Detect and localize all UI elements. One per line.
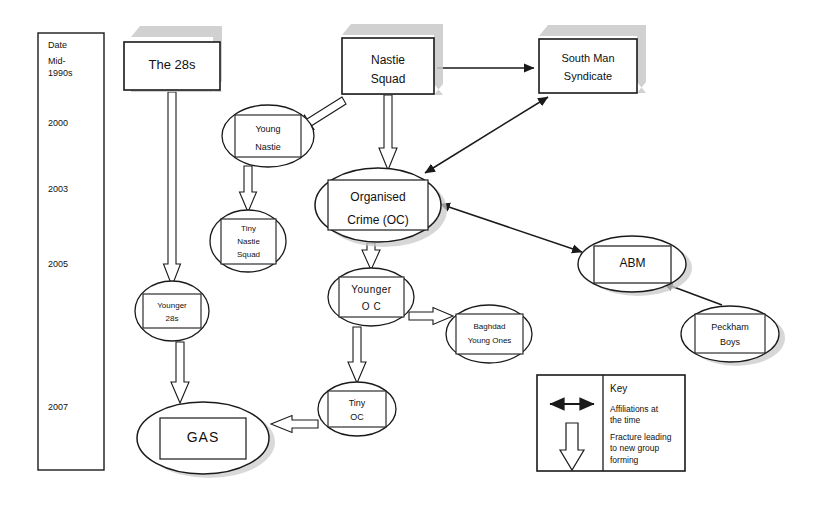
node-youngnastie-inner bbox=[235, 115, 301, 157]
node-tinyoc-inner bbox=[328, 391, 386, 427]
fracture-youngeroc-baghdad bbox=[409, 308, 453, 325]
date-axis-header: Date bbox=[48, 40, 67, 52]
date-tick-2005: 2005 bbox=[48, 259, 68, 271]
date-tick-mid1990s: Mid- 1990s bbox=[48, 56, 73, 79]
diagram-canvas: Date Mid- 1990s 2000 2003 2005 2007 The … bbox=[0, 0, 827, 515]
key-fracture-text: Fracture leading to new group forming bbox=[610, 432, 671, 466]
node-tinynastie-inner bbox=[221, 219, 276, 264]
node-southman[interactable] bbox=[539, 39, 637, 93]
date-tick-2007: 2007 bbox=[48, 402, 68, 414]
node-abm-inner bbox=[594, 246, 671, 283]
node-peckham-inner bbox=[695, 314, 765, 353]
fracture-younger28s-gas bbox=[171, 342, 189, 403]
fracture-oc-youngeroc bbox=[362, 243, 380, 270]
node-the28s[interactable] bbox=[124, 42, 220, 90]
nodes-group bbox=[124, 24, 785, 478]
fracture-the28s-younger28s bbox=[164, 92, 181, 286]
key-title: Key bbox=[610, 382, 627, 396]
fracture-tinyoc-gas bbox=[271, 416, 318, 433]
node-younger28s-inner bbox=[143, 294, 201, 328]
date-tick-2000: 2000 bbox=[48, 118, 68, 130]
fracture-youngeroc-tinyoc bbox=[348, 327, 366, 383]
fracture-youngnastie-tinynastie bbox=[240, 166, 257, 212]
diagram-svg bbox=[0, 0, 827, 515]
key-affiliation-text: Affiliations at the time bbox=[610, 404, 658, 427]
affiliation-oc-southman bbox=[425, 97, 548, 173]
node-nastie[interactable] bbox=[342, 38, 434, 94]
node-oc-inner bbox=[328, 180, 428, 230]
affiliation-oc-abm bbox=[440, 204, 582, 252]
node-baghdad-inner bbox=[456, 314, 523, 354]
fracture-nastie-oc bbox=[379, 95, 397, 170]
date-tick-2003: 2003 bbox=[48, 184, 68, 196]
node-youngeroc-inner bbox=[339, 277, 404, 317]
node-gas-inner bbox=[160, 418, 246, 459]
